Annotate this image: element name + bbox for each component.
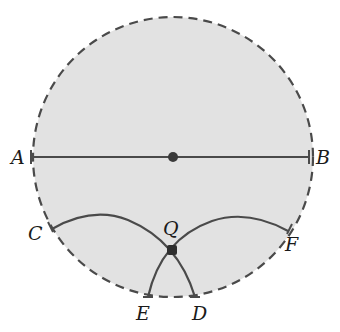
label-F: F — [284, 233, 299, 255]
label-A: A — [9, 146, 25, 168]
label-D: D — [191, 302, 207, 324]
geometry-diagram: A B C F Q E D — [0, 0, 340, 332]
label-B: B — [315, 146, 330, 168]
label-E: E — [135, 302, 150, 324]
center-point — [168, 152, 178, 162]
point-Q-marker — [167, 245, 177, 255]
label-C: C — [28, 222, 43, 244]
label-Q: Q — [163, 217, 179, 239]
